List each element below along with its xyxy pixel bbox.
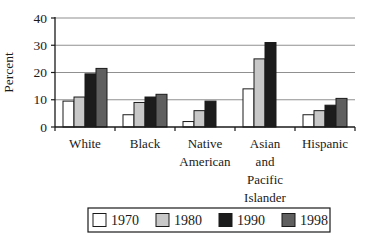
bar-1980-hispanic (314, 111, 325, 127)
x-category-label-asian-and-pacific-islander: Pacific (247, 172, 283, 187)
bar-1980-native-american (194, 111, 205, 127)
y-tick-label-0: 0 (40, 120, 47, 135)
legend-swatch-1970 (93, 214, 106, 227)
x-category-label-black: Black (130, 136, 161, 151)
legend-label-1980: 1980 (174, 213, 202, 228)
legend-swatch-1990 (219, 214, 232, 227)
legend-label-1990: 1990 (237, 213, 265, 228)
bar-1998-white (96, 68, 107, 127)
bar-1970-hispanic (303, 115, 314, 127)
legend-label-1970: 1970 (111, 213, 139, 228)
bar-1998-hispanic (336, 98, 347, 127)
x-category-label-asian-and-pacific-islander: and (256, 154, 275, 169)
y-tick-label-10: 10 (34, 92, 48, 107)
bar-chart: 010203040PercentWhiteBlackNativeAmerican… (0, 0, 365, 240)
y-tick-label-40: 40 (34, 11, 48, 26)
chart-figure: 010203040PercentWhiteBlackNativeAmerican… (0, 0, 365, 240)
bar-1980-black (134, 102, 145, 127)
bar-1998-black (156, 94, 167, 127)
bar-1970-white (63, 101, 74, 127)
bar-1970-native-american (183, 122, 194, 127)
y-tick-label-30: 30 (34, 38, 48, 53)
bar-1990-asian-and-pacific-islander (265, 43, 276, 127)
legend-swatch-1998 (282, 214, 295, 227)
x-category-label-hispanic: Hispanic (302, 136, 348, 151)
legend-swatch-1980 (156, 214, 169, 227)
x-category-label-asian-and-pacific-islander: Islander (244, 190, 287, 205)
bar-1980-asian-and-pacific-islander (254, 59, 265, 127)
bar-1980-white (74, 97, 85, 127)
x-category-label-white: White (69, 136, 101, 151)
x-category-label-asian-and-pacific-islander: Asian (250, 136, 281, 151)
bar-1990-black (145, 97, 156, 127)
x-category-label-native-american: Native (188, 136, 223, 151)
bar-1990-white (85, 74, 96, 127)
y-tick-label-20: 20 (34, 65, 48, 80)
bar-1970-asian-and-pacific-islander (243, 89, 254, 127)
x-category-label-native-american: American (179, 154, 231, 169)
y-axis-title: Percent (1, 52, 16, 93)
bar-1990-native-american (205, 101, 216, 127)
legend-label-1998: 1998 (300, 213, 328, 228)
bar-1990-hispanic (325, 105, 336, 127)
bar-1970-black (123, 115, 134, 127)
